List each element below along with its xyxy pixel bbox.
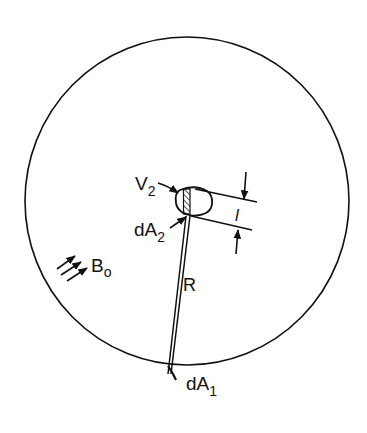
b0-label: Bo: [91, 255, 112, 280]
da2-leader-arrow: [170, 217, 186, 228]
b0-field-arrows: [57, 256, 87, 281]
diagram-canvas: l V2 dA2 R dA1 Bo: [0, 0, 367, 433]
da2-label: dA2: [134, 219, 165, 245]
r-line-right: [171, 216, 190, 374]
dimension-arrow-bottom: [236, 230, 238, 254]
thickness-label: l: [235, 206, 240, 225]
r-line-left: [168, 216, 186, 374]
hatched-strip: [184, 189, 191, 214]
v2-label: V2: [135, 173, 156, 199]
extension-line-bottom: [191, 216, 252, 230]
dimension-arrow-top: [244, 172, 246, 199]
v2-leader-arrow: [158, 183, 178, 193]
r-label: R: [183, 275, 196, 295]
da1-label: dA1: [186, 373, 217, 399]
